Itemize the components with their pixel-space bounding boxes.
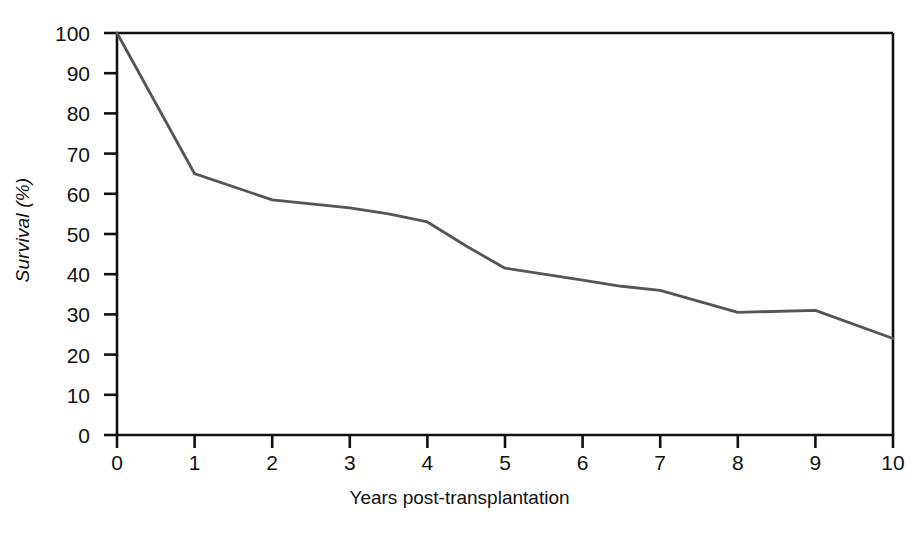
data-series-group — [117, 33, 893, 339]
plot-area — [0, 0, 919, 540]
survival-chart-figure: Survival (%) 0102030405060708090100 0123… — [0, 0, 919, 540]
x-axis-title: Years post-transplantation — [0, 487, 919, 509]
y-axis-ticks — [104, 33, 117, 435]
axis-frame — [117, 33, 893, 435]
x-axis-ticks — [117, 435, 893, 448]
